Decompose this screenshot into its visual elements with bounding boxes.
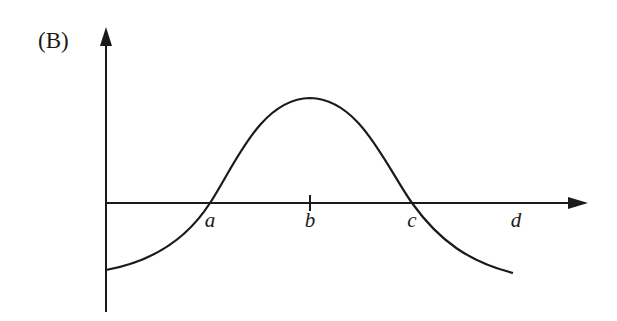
x-label-c: c (407, 208, 416, 233)
panel-label: (B) (38, 28, 69, 54)
bell-curve (106, 98, 513, 273)
diagram-canvas (0, 0, 617, 321)
x-axis-arrow-icon (568, 197, 588, 209)
x-label-b: b (305, 208, 316, 233)
x-label-d: d (511, 208, 522, 233)
x-label-a: a (205, 208, 216, 233)
y-axis-arrow-icon (100, 27, 112, 46)
